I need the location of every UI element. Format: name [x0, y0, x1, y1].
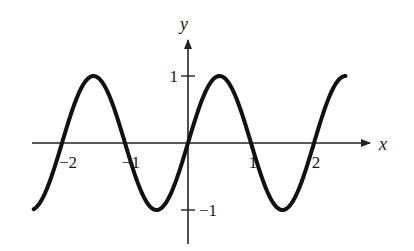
sine-plot: −2−1121−1 x y [0, 0, 414, 251]
y-tick-label: −1 [199, 201, 217, 220]
y-tick-label: 1 [170, 67, 179, 86]
x-tick-label: −2 [59, 153, 77, 172]
x-tick-label: 2 [312, 153, 321, 172]
x-axis-label: x [378, 134, 387, 154]
y-axis-label: y [178, 14, 188, 34]
